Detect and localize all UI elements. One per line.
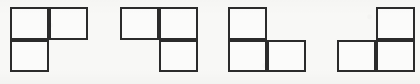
unit-square xyxy=(376,7,415,40)
tromino-2 xyxy=(120,7,198,72)
tromino-4 xyxy=(337,7,415,72)
unit-square xyxy=(10,7,49,40)
tromino-3 xyxy=(228,7,306,72)
figure-canvas xyxy=(0,0,420,84)
unit-square xyxy=(228,40,267,73)
unit-square xyxy=(376,40,415,73)
unit-square xyxy=(337,40,376,73)
unit-square xyxy=(228,7,267,40)
unit-square xyxy=(159,7,198,40)
unit-square xyxy=(267,40,306,73)
unit-square xyxy=(159,40,198,73)
unit-square xyxy=(120,7,159,40)
unit-square xyxy=(49,7,88,40)
unit-square xyxy=(10,40,49,73)
tromino-1 xyxy=(10,7,88,72)
